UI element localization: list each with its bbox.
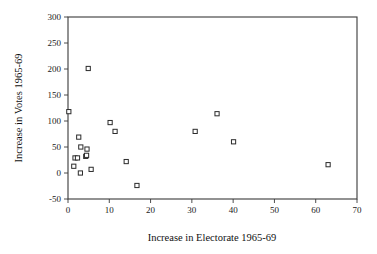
data-point-marker (215, 112, 219, 116)
x-axis-title: Increase in Electorate 1965-69 (148, 232, 277, 243)
y-axis-title: Increase in Votes 1965-69 (13, 54, 24, 163)
x-tick-label: 40 (229, 205, 239, 215)
y-tick-label: 150 (48, 90, 62, 100)
data-point-marker (231, 140, 235, 144)
data-point-marker (84, 153, 88, 157)
data-point-marker (79, 145, 83, 149)
x-axis-ticks (68, 199, 357, 203)
data-point-marker (113, 129, 117, 133)
x-tick-label: 10 (105, 205, 115, 215)
data-point-marker (75, 156, 79, 160)
data-point-marker (193, 129, 197, 133)
y-tick-label: 250 (48, 38, 62, 48)
plot-frame (68, 17, 357, 199)
data-point-marker (85, 147, 89, 151)
y-tick-label: -50 (49, 194, 61, 204)
y-tick-label: 0 (57, 168, 62, 178)
data-point-marker (89, 167, 93, 171)
y-tick-label: 300 (48, 12, 62, 22)
y-tick-label: 100 (48, 116, 62, 126)
x-tick-label: 30 (187, 205, 197, 215)
y-tick-label: 50 (52, 142, 62, 152)
y-tick-label: 200 (48, 64, 62, 74)
scatter-plot-canvas: 010203040506070 -50050100150200250300 In… (0, 0, 377, 254)
x-tick-label: 0 (66, 205, 71, 215)
data-point-marker (67, 110, 71, 114)
data-point-marker (78, 171, 82, 175)
data-point-series (67, 66, 330, 187)
y-axis-ticks (64, 17, 68, 199)
data-point-marker (124, 159, 128, 163)
x-tick-label: 20 (146, 205, 156, 215)
x-tick-label: 50 (270, 205, 280, 215)
x-axis-tick-labels: 010203040506070 (66, 205, 362, 215)
data-point-marker (77, 135, 81, 139)
y-axis-tick-labels: -50050100150200250300 (48, 12, 62, 204)
data-point-marker (86, 66, 90, 70)
x-tick-label: 70 (353, 205, 363, 215)
data-point-marker (108, 120, 112, 124)
scatter-plot-figure: 010203040506070 -50050100150200250300 In… (0, 0, 377, 254)
x-tick-label: 60 (311, 205, 321, 215)
data-point-marker (326, 163, 330, 167)
data-point-marker (72, 164, 76, 168)
data-point-marker (135, 183, 139, 187)
